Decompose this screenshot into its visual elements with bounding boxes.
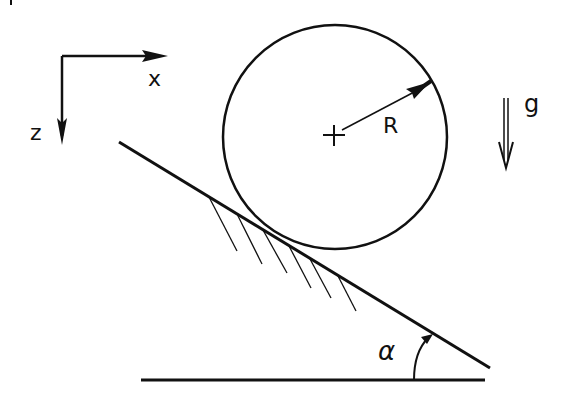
diagram-canvas: x z R g α	[0, 0, 565, 404]
incline-hatching	[209, 197, 356, 311]
gravity-arrowhead-icon	[499, 142, 513, 168]
radius-line	[342, 90, 418, 130]
gravity-label: g	[524, 90, 539, 118]
incline-surface	[119, 142, 490, 368]
x-axis-label: x	[148, 66, 161, 91]
gravity-indicator: g	[499, 90, 539, 168]
angle-arc	[414, 338, 428, 380]
angle-arrowhead-icon	[421, 334, 433, 344]
angle-indicator: α	[378, 334, 433, 380]
inclined-plane	[119, 142, 490, 368]
angle-label: α	[378, 336, 395, 366]
cylinder: R	[223, 25, 447, 249]
coordinate-axes: x z	[30, 50, 168, 145]
z-axis-label: z	[30, 120, 42, 145]
radius-label: R	[383, 113, 398, 138]
